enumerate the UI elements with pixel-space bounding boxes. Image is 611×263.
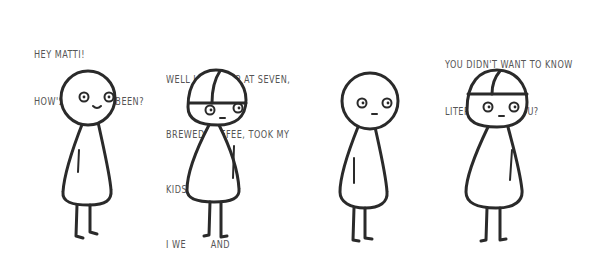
- character-4-capped: [466, 70, 527, 241]
- comic-figures: [0, 0, 611, 263]
- character-2-capped: [187, 70, 246, 237]
- character-1-smiling: [61, 71, 115, 238]
- character-3-neutral: [340, 73, 398, 241]
